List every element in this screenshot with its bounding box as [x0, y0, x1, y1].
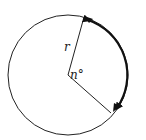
circle-sector-diagram: r n°	[0, 0, 146, 140]
angle-label: n°	[70, 68, 84, 82]
radius-line-top	[68, 17, 84, 75]
arc-length-arrow	[88, 20, 127, 108]
radius-label: r	[64, 40, 71, 54]
